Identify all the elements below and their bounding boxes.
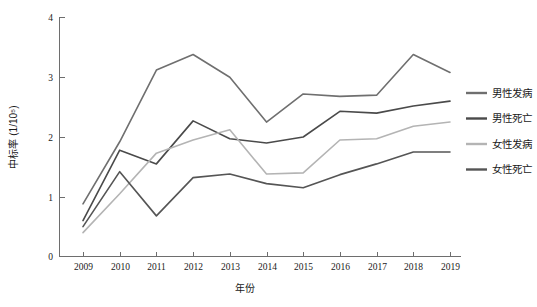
chart-legend: 男性发病男性死亡女性发病女性死亡 [466, 87, 533, 176]
x-tick-label-2010: 2010 [111, 262, 130, 272]
x-tick-label-2013: 2013 [221, 262, 240, 272]
x-axis: 2009201020112012201320142015201620172018… [60, 252, 462, 295]
x-tick-label-2019: 2019 [441, 262, 460, 272]
y-axis-title: 中标率 (1/10⁵) [7, 105, 19, 168]
y-axis-tick-labels: 4 3 2 1 0 [48, 13, 53, 262]
series-line-0 [83, 55, 450, 204]
x-tick-label-2009: 2009 [74, 262, 93, 272]
y-tick-label-4: 4 [48, 13, 53, 23]
y-tick-label-0: 0 [48, 252, 53, 262]
legend-label-0: 男性发病 [492, 87, 533, 99]
y-axis: 4 3 2 1 0 中标率 (1/10⁵) [7, 13, 65, 262]
x-tick-label-2017: 2017 [368, 262, 387, 272]
y-tick-label-3: 3 [48, 73, 53, 83]
x-tick-label-2014: 2014 [258, 262, 277, 272]
line-chart: 4 3 2 1 0 中标率 (1/10⁵) 200920102011201220… [0, 0, 537, 307]
x-tick-label-2018: 2018 [404, 262, 423, 272]
legend-label-3: 女性死亡 [492, 163, 532, 175]
legend-label-1: 男性死亡 [492, 112, 532, 124]
x-axis-ticks [84, 252, 451, 257]
series-line-3 [83, 152, 450, 227]
y-tick-label-1: 1 [48, 193, 53, 203]
x-tick-label-2012: 2012 [184, 262, 203, 272]
series-line-1 [83, 101, 450, 220]
x-tick-label-2016: 2016 [331, 262, 350, 272]
x-axis-title: 年份 [235, 282, 255, 294]
x-tick-label-2011: 2011 [147, 262, 166, 272]
x-tick-label-2015: 2015 [294, 262, 313, 272]
x-axis-tick-labels: 2009201020112012201320142015201620172018… [74, 262, 460, 272]
y-axis-ticks [60, 18, 65, 257]
series-layer [83, 55, 450, 233]
legend-label-2: 女性发病 [492, 138, 533, 150]
series-line-2 [83, 122, 450, 233]
y-tick-label-2: 2 [48, 133, 53, 143]
